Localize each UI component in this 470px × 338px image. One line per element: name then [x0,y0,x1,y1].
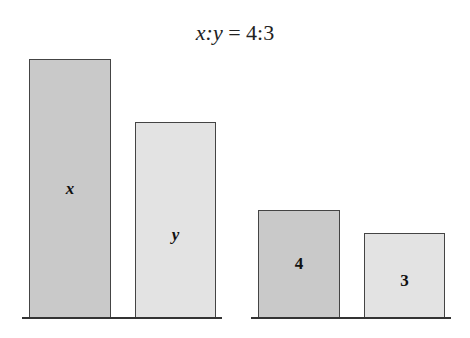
bar-x-label: x [66,179,75,199]
bar-4: 4 [258,210,340,318]
right-baseline [251,317,451,319]
bar-y-label: y [172,225,180,245]
ratio-equals: = [223,20,246,45]
ratio-lhs: x:y [196,20,223,45]
bar-y: y [135,122,216,318]
left-baseline [22,317,222,319]
ratio-rhs: 4:3 [246,20,274,45]
bar-4-label: 4 [295,254,304,274]
bar-x: x [29,59,111,318]
ratio-title: x:y = 4:3 [0,20,470,46]
bar-3: 3 [364,233,445,318]
bar-3-label: 3 [400,271,409,291]
